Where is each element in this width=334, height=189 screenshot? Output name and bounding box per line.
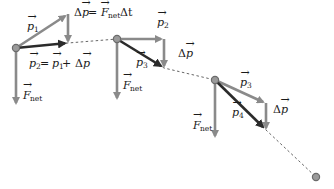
svg-text:3: 3 bbox=[143, 61, 148, 70]
label-p1: → p 1 bbox=[27, 10, 39, 34]
particle-dot-icon bbox=[312, 173, 319, 180]
svg-text:p: p bbox=[232, 106, 239, 119]
label-fnet-3: → F net bbox=[192, 108, 212, 133]
svg-text:net: net bbox=[30, 94, 42, 103]
svg-text:3: 3 bbox=[247, 81, 252, 90]
svg-text:p: p bbox=[83, 57, 90, 70]
svg-text:=: = bbox=[40, 57, 49, 70]
label-p2: → p 2 bbox=[157, 6, 169, 30]
svg-text:p: p bbox=[29, 57, 36, 70]
label-fnet-2: → F net bbox=[122, 68, 142, 93]
svg-text:p: p bbox=[157, 16, 164, 29]
label-dp-3: Δ → p bbox=[273, 93, 290, 116]
momentum-diagram: → p 1 Δ → p = → F net Δt → p 2 = → p 1 +… bbox=[0, 0, 334, 189]
svg-text:p: p bbox=[52, 57, 59, 70]
svg-text:net: net bbox=[108, 11, 120, 20]
svg-text:p: p bbox=[281, 103, 288, 116]
svg-text:4: 4 bbox=[239, 111, 244, 120]
svg-text:1: 1 bbox=[34, 25, 39, 34]
label-p2-sum-equation: → p 2 = → p 1 + Δ → p bbox=[29, 47, 92, 71]
svg-text:net: net bbox=[200, 124, 212, 133]
label-impulse-equation: Δ → p = → F net Δt bbox=[74, 0, 133, 20]
particle-dot-icon bbox=[211, 76, 218, 83]
label-fnet-1: → F net bbox=[22, 78, 42, 103]
label-p3: → p 3 bbox=[240, 66, 252, 90]
svg-text:p: p bbox=[240, 76, 247, 89]
particle-dot-icon bbox=[12, 44, 19, 51]
particle-dot-icon bbox=[113, 35, 120, 42]
svg-text:+: + bbox=[62, 57, 71, 70]
svg-text:p: p bbox=[136, 56, 143, 69]
svg-text:p: p bbox=[27, 20, 34, 33]
svg-text:2: 2 bbox=[164, 21, 169, 30]
svg-text:p: p bbox=[186, 47, 193, 60]
svg-text:net: net bbox=[130, 84, 142, 93]
label-dp-2: Δ → p bbox=[178, 37, 195, 60]
svg-text:Δt: Δt bbox=[120, 6, 133, 19]
svg-text:=: = bbox=[88, 6, 97, 19]
